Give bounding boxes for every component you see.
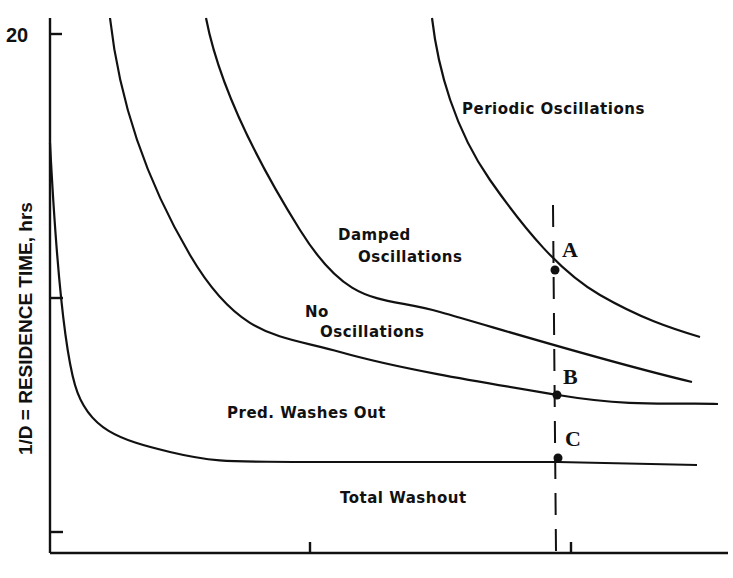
point-c-label: C <box>565 426 581 451</box>
phase-diagram: 20 1/D = RESIDENCE TIME, hrs A B C Perio… <box>0 0 733 578</box>
region-label-no-osc-2: Oscillations <box>320 323 424 341</box>
region-label-no-osc-1: No <box>305 303 329 321</box>
operating-line-dashed <box>553 205 556 553</box>
point-c-marker <box>554 454 563 463</box>
curve-periodic-boundary <box>432 18 700 337</box>
point-b-label: B <box>563 364 578 389</box>
curve-no-oscillation-boundary <box>110 18 718 404</box>
y-axis-label: 1/D = RESIDENCE TIME, hrs <box>15 202 36 455</box>
region-label-damped-1: Damped <box>338 226 411 244</box>
region-label-periodic: Periodic Oscillations <box>462 100 645 118</box>
curve-damped-boundary <box>206 18 692 382</box>
axes <box>50 18 728 553</box>
point-a-label: A <box>562 237 578 262</box>
point-b-marker <box>553 391 562 400</box>
y-tick-label-20: 20 <box>6 24 28 46</box>
region-label-pred-washes-out: Pred. Washes Out <box>227 404 386 422</box>
region-label-total-washout: Total Washout <box>340 489 467 507</box>
point-a-marker <box>551 266 560 275</box>
region-label-damped-2: Oscillations <box>358 248 462 266</box>
